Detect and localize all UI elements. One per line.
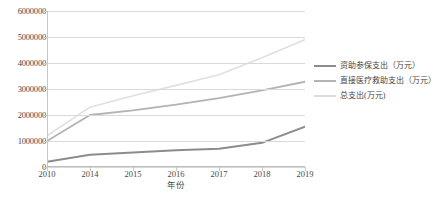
gridline <box>47 63 305 64</box>
legend-swatch-icon <box>314 65 336 67</box>
y-axis-line <box>47 11 48 167</box>
x-axis-label: 2017 <box>197 170 241 179</box>
series-line <box>47 127 305 162</box>
y-axis-label: 6000000 <box>2 7 46 16</box>
legend-swatch-icon <box>314 95 336 97</box>
legend-item-1[interactable]: 直接医疗救助支出（万元） <box>314 74 436 87</box>
x-axis-label: 2018 <box>240 170 284 179</box>
legend-label: 资助参保支出（万元） <box>340 61 420 70</box>
x-axis-title: 年份 <box>146 181 206 190</box>
x-axis-label: 2010 <box>25 170 69 179</box>
x-axis-label: 2015 <box>111 170 155 179</box>
x-axis-label: 2019 <box>283 170 327 179</box>
x-axis-label: 2016 <box>154 170 198 179</box>
gridline <box>47 89 305 90</box>
line-chart: 0100000020000003000000400000050000006000… <box>0 0 436 203</box>
gridline <box>47 11 305 12</box>
gridline <box>47 115 305 116</box>
chart-legend: 资助参保支出（万元） 直接医疗救助支出（万元） 总支出(万元) <box>314 59 436 104</box>
legend-label: 直接医疗救助支出（万元） <box>340 76 436 85</box>
gridline <box>47 141 305 142</box>
x-axis-label: 2014 <box>68 170 112 179</box>
plot-area <box>47 11 305 167</box>
y-axis-label: 5000000 <box>2 33 46 42</box>
series-line <box>47 82 305 141</box>
legend-item-2[interactable]: 总支出(万元) <box>314 89 436 102</box>
y-axis-label: 2000000 <box>2 111 46 120</box>
y-axis-label: 1000000 <box>2 137 46 146</box>
y-axis-label: 4000000 <box>2 59 46 68</box>
legend-swatch-icon <box>314 80 336 82</box>
y-axis-label: 3000000 <box>2 85 46 94</box>
gridline <box>47 37 305 38</box>
legend-label: 总支出(万元) <box>340 91 385 100</box>
series-line <box>47 40 305 136</box>
legend-item-0[interactable]: 资助参保支出（万元） <box>314 59 436 72</box>
